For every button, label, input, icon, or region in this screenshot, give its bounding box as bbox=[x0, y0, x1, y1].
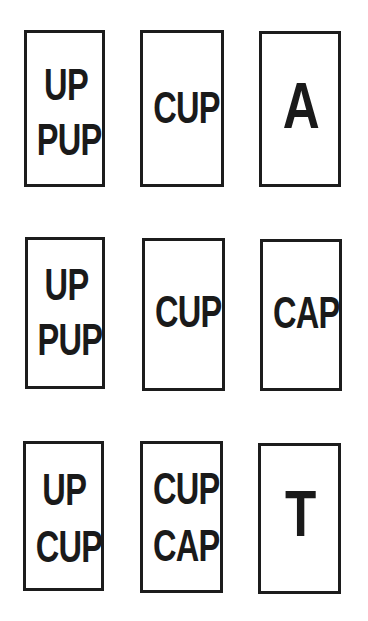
card-word: CUP bbox=[153, 467, 210, 511]
card-word: PUP bbox=[37, 118, 93, 162]
card-letter: T bbox=[269, 482, 331, 546]
card-word: CAP bbox=[153, 524, 210, 568]
card-word: UP bbox=[38, 263, 93, 307]
card-letter: A bbox=[270, 74, 331, 138]
card-row3-col2: CUP CAP bbox=[140, 441, 223, 593]
card-word: CUP bbox=[36, 525, 92, 569]
card-word: UP bbox=[37, 63, 93, 107]
card-row2-col1: UP PUP bbox=[25, 237, 105, 389]
card-row1-col1: UP PUP bbox=[24, 30, 105, 187]
card-word: PUP bbox=[38, 318, 93, 362]
card-word: UP bbox=[36, 468, 92, 512]
card-row2-col2: CUP bbox=[142, 238, 225, 391]
card-word: CAP bbox=[273, 291, 329, 335]
card-word: CUP bbox=[155, 290, 212, 334]
card-row1-col3: A bbox=[259, 31, 341, 187]
card-row1-col2: CUP bbox=[140, 30, 224, 187]
card-row3-col1: UP CUP bbox=[23, 441, 104, 591]
card-row3-col3: T bbox=[258, 443, 341, 594]
card-row2-col3: CAP bbox=[260, 239, 342, 391]
card-word: CUP bbox=[153, 86, 211, 130]
